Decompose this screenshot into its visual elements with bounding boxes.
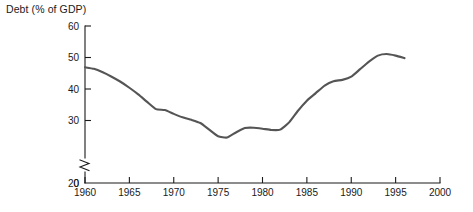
x-tick-label: 1995 [385,187,408,198]
data-series-line [85,54,405,138]
y-tick-label: 60 [68,21,80,32]
x-tick-label: 1990 [340,187,363,198]
chart-figure: Debt (% of GDP) 02030405060 196019651970… [0,0,473,212]
figure-caption [4,203,304,211]
y-axis-break-icon [80,160,89,171]
x-tick-label: 1970 [163,187,186,198]
x-axis-tick-marks [85,177,440,183]
y-tick-label: 40 [68,84,80,95]
x-tick-label: 1985 [296,187,319,198]
x-tick-label: 1975 [207,187,230,198]
y-axis-tick-labels: 02030405060 [68,21,80,189]
x-tick-label: 1960 [74,187,97,198]
x-axis-tick-labels: 196019651970197519801985199019952000 [74,187,452,198]
y-tick-label: 50 [68,52,80,63]
x-tick-label: 2000 [429,187,452,198]
y-axis-tick-marks [85,26,91,121]
x-tick-label: 1980 [251,187,274,198]
x-tick-label: 1965 [118,187,141,198]
line-chart-plot: 02030405060 1960196519701975198019851990… [0,0,473,212]
y-tick-label: 30 [68,115,80,126]
